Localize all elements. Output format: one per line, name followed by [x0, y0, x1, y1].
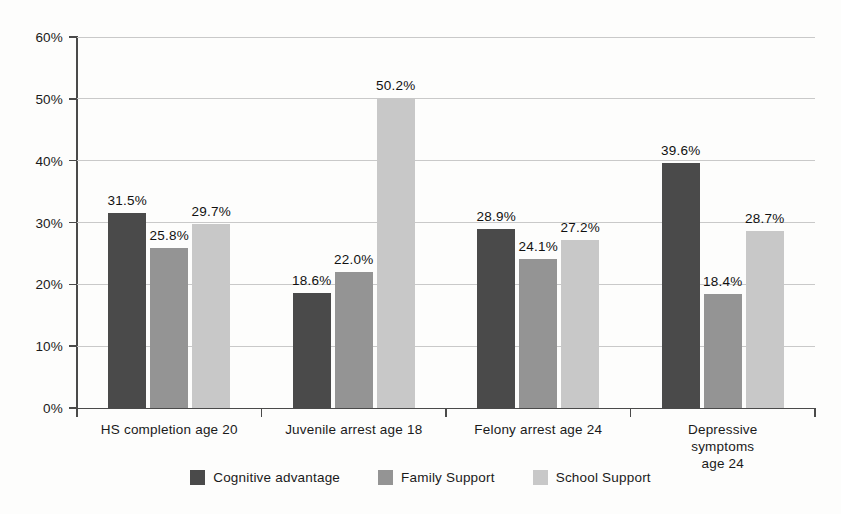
bar-value-label: 31.5% [108, 193, 147, 208]
bar-chart-figure: 0%10%20%30%40%50%60% 31.5%25.8%29.7%18.6… [0, 0, 841, 514]
legend-label: Cognitive advantage [213, 470, 340, 485]
y-tick-mark [69, 98, 77, 100]
x-axis-category-label: Depressive symptoms age 24 [664, 421, 782, 472]
legend-label: School Support [556, 470, 651, 485]
bar-value-label: 28.9% [477, 209, 516, 224]
bar-value-label: 39.6% [661, 143, 700, 158]
legend-item: School Support [533, 470, 651, 485]
x-axis-category-label: HS completion age 20 [101, 421, 238, 438]
bar: 28.7% [746, 231, 784, 408]
legend-swatch [190, 470, 205, 485]
bar: 31.5% [108, 213, 146, 408]
bar: 18.4% [704, 294, 742, 408]
x-axis-category-label: Juvenile arrest age 18 [285, 421, 422, 438]
legend-item: Family Support [378, 470, 495, 485]
y-tick-mark [69, 284, 77, 286]
gridline [77, 160, 815, 161]
bar: 50.2% [377, 98, 415, 408]
y-tick-mark [69, 36, 77, 38]
bar: 25.8% [150, 248, 188, 408]
x-axis-category-label: Felony arrest age 24 [474, 421, 602, 438]
y-tick-mark [69, 160, 77, 162]
bar: 27.2% [561, 240, 599, 408]
bar: 28.9% [477, 229, 515, 408]
y-tick-label: 30% [0, 215, 63, 230]
bar-value-label: 22.0% [334, 252, 373, 267]
y-tick-label: 0% [0, 401, 63, 416]
y-tick-label: 50% [0, 91, 63, 106]
bar: 24.1% [519, 259, 557, 408]
bar-value-label: 18.4% [703, 274, 742, 289]
bar: 22.0% [335, 272, 373, 408]
bar-value-label: 27.2% [561, 220, 600, 235]
y-tick-label: 40% [0, 153, 63, 168]
bar-value-label: 28.7% [745, 211, 784, 226]
bar-value-label: 29.7% [192, 204, 231, 219]
bar-value-label: 50.2% [376, 78, 415, 93]
x-tick-mark [814, 408, 816, 417]
gridline [77, 37, 815, 38]
y-tick-label: 20% [0, 277, 63, 292]
x-tick-mark [76, 408, 78, 417]
bar-value-label: 25.8% [150, 228, 189, 243]
x-tick-mark [261, 408, 263, 417]
bar: 29.7% [192, 224, 230, 408]
legend-item: Cognitive advantage [190, 470, 340, 485]
legend-swatch [533, 470, 548, 485]
y-tick-mark [69, 222, 77, 224]
legend-label: Family Support [401, 470, 495, 485]
bar: 39.6% [662, 163, 700, 408]
bar: 18.6% [293, 293, 331, 408]
y-tick-label: 60% [0, 30, 63, 45]
y-tick-mark [69, 345, 77, 347]
x-tick-mark [445, 408, 447, 417]
x-tick-mark [630, 408, 632, 417]
chart-legend: Cognitive advantageFamily SupportSchool … [0, 470, 841, 485]
legend-swatch [378, 470, 393, 485]
gridline [77, 98, 815, 99]
gridline [77, 222, 815, 223]
bar-value-label: 24.1% [519, 239, 558, 254]
bar-value-label: 18.6% [292, 273, 331, 288]
y-tick-label: 10% [0, 339, 63, 354]
